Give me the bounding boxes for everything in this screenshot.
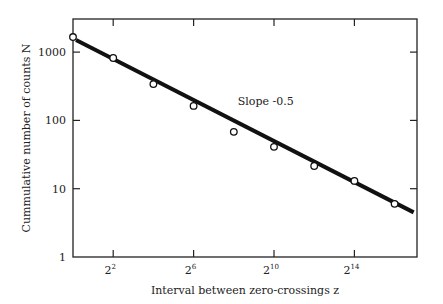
x-axis-label: Interval between zero-crossings z [151,284,339,297]
y-tick-label: 1000 [38,46,66,59]
y-tick-label: 1 [59,251,66,264]
data-point [391,201,398,208]
plot-frame [73,19,417,257]
regression-line [76,40,414,212]
y-tick-label: 100 [45,114,66,127]
fit-line [76,40,414,212]
x-tick-label: 22 [104,263,115,277]
x-tick-label: 26 [185,263,197,277]
data-point [271,144,278,151]
data-point [190,103,197,110]
axis-ticks [73,19,417,257]
y-axis-label: Cummulative number of counts N [20,43,33,232]
y-tick-label: 10 [52,183,66,196]
data-point [70,34,77,41]
annotations: Slope -0.5 [238,95,294,108]
data-point [110,55,117,62]
data-point [351,178,358,185]
data-point [311,163,318,170]
slope-annotation: Slope -0.5 [238,95,294,108]
x-tick-label: 210 [263,263,279,277]
x-tick-label: 214 [343,263,359,277]
data-point [150,81,157,88]
chart: 22262102141101001000 Slope -0.5 Interval… [0,0,443,304]
data-point [231,129,238,136]
